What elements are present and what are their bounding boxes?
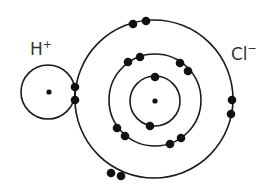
hydrogen-label: H+ bbox=[30, 38, 52, 59]
outer-shell-electron bbox=[228, 96, 237, 105]
middle-shell-electron bbox=[184, 67, 193, 76]
chlorine-symbol: Cl bbox=[231, 44, 248, 64]
outer-shell-electron bbox=[142, 17, 151, 26]
middle-shell-electron bbox=[176, 59, 185, 68]
chlorine-nucleus bbox=[152, 98, 157, 103]
inner-shell-electron bbox=[146, 122, 155, 131]
hydrogen-charge: + bbox=[43, 38, 52, 51]
electrons bbox=[71, 17, 237, 181]
outer-shell-electron bbox=[107, 169, 116, 178]
hydrogen-symbol: H bbox=[30, 39, 43, 59]
ion-shell-diagram: H+ Cl− bbox=[0, 0, 268, 194]
middle-shell-electron bbox=[121, 132, 130, 141]
shared-electron bbox=[71, 96, 80, 105]
inner-shell-electron bbox=[151, 73, 160, 82]
middle-shell-electron bbox=[166, 140, 175, 149]
chlorine-charge: − bbox=[248, 42, 257, 55]
middle-shell-electron bbox=[124, 58, 133, 67]
middle-shell-electron bbox=[113, 124, 122, 133]
outer-shell-electron bbox=[129, 20, 138, 29]
middle-shell-electron bbox=[177, 134, 186, 143]
chlorine-label: Cl− bbox=[231, 42, 257, 64]
outer-shell-electron bbox=[117, 172, 126, 181]
shared-electron bbox=[71, 83, 80, 92]
middle-shell-electron bbox=[136, 53, 145, 62]
hydrogen-nucleus bbox=[46, 89, 51, 94]
outer-shell-electron bbox=[227, 110, 236, 119]
hydrogen-ion: H+ bbox=[21, 38, 75, 119]
